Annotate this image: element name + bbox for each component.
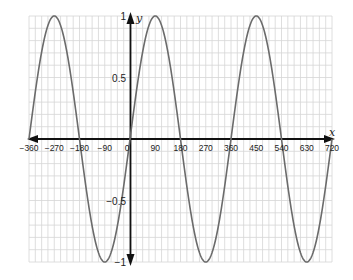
y-axis-bottom-arrow [127,254,135,266]
x-tick-label: −90 [98,143,113,153]
x-tick-label: −180 [70,143,89,153]
x-tick-label: 0 [125,143,130,153]
x-tick-label: 360 [224,143,238,153]
y-tick-label: −1 [115,257,127,268]
y-axis-top-arrow [127,12,135,24]
y-axis-label: y [135,12,143,25]
sine-graph: −360−270−180−90090180270360450540630720 … [0,0,353,280]
x-tick-label: 90 [151,143,161,153]
x-tick-label: 540 [274,143,288,153]
x-tick-label: 720 [325,143,339,153]
y-tick-label: 0.5 [112,73,126,84]
x-tick-label: 450 [249,143,263,153]
x-tick-label: 270 [199,143,213,153]
y-tick-label: −0.5 [106,196,126,207]
x-tick-label: −270 [45,143,64,153]
y-tick-label: 1 [120,11,126,22]
x-axis-label: x [329,126,336,139]
x-tick-label: 180 [173,143,187,153]
x-tick-label: 630 [300,143,314,153]
x-tick-label: −360 [19,143,38,153]
